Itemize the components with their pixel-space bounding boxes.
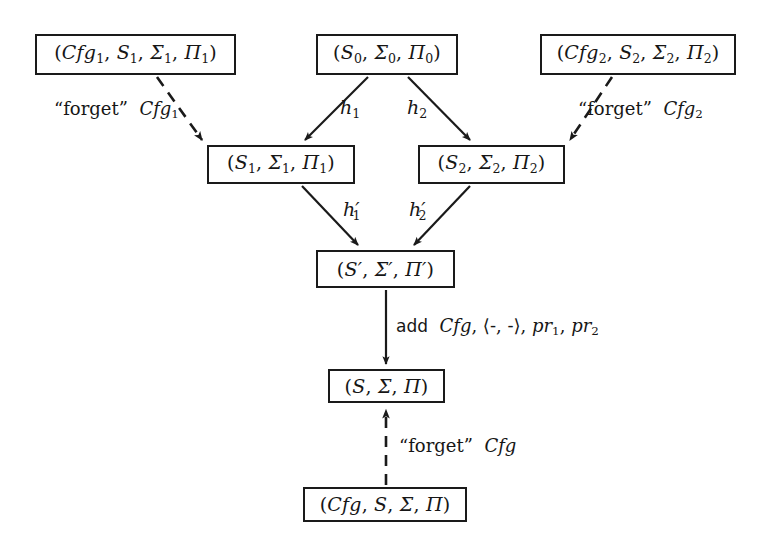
forget-cfg-quote: “forget” [399, 435, 473, 456]
edge-label-h1: h1 [340, 98, 360, 120]
edge-label-h2: h2 [407, 98, 427, 120]
forget-cfg1-sub: 1 [171, 107, 179, 121]
add-cfg-symbol: Cfg [439, 315, 471, 336]
node-s-prime-label: (S′, Σ′, Π′) [337, 260, 434, 279]
add-pair-text: , ⟨-, -⟩, [471, 315, 532, 336]
node-s-label: (S, Σ, Π) [345, 377, 429, 396]
h2-base: h [407, 96, 419, 118]
node-s2-label: (S2, Σ2, Π2) [438, 153, 546, 175]
node-s1-label: (S1, Σ1, Π1) [227, 153, 335, 175]
node-cfg-label: (Cfg, S, Σ, Π) [320, 495, 451, 514]
add-pr2-sub: 2 [591, 324, 599, 338]
edge-label-forget-cfg: “forget” Cfg [399, 437, 516, 456]
h1p-sub: 1 [353, 208, 361, 223]
edge-label-forget-cfg2: “forget” Cfg2 [578, 100, 703, 121]
node-cfg1[interactable]: (Cfg1, S1, Σ1, Π1) [35, 34, 236, 75]
node-s-prime[interactable]: (S′, Σ′, Π′) [316, 250, 455, 288]
h1-base: h [340, 96, 352, 118]
edge-label-h1-prime: h′1 [343, 200, 361, 222]
add-pr2-symbol: pr [571, 315, 591, 336]
h2p-sub: 2 [419, 208, 427, 223]
node-cfg[interactable]: (Cfg, S, Σ, Π) [303, 487, 467, 522]
node-s2[interactable]: (S2, Σ2, Π2) [418, 145, 565, 184]
forget-cfg2-symbol: Cfg [663, 98, 695, 119]
node-cfg1-label: (Cfg1, S1, Σ1, Π1) [54, 43, 217, 65]
h1-sub: 1 [352, 106, 360, 121]
add-word: add [396, 316, 428, 336]
add-pr1-symbol: pr [532, 315, 552, 336]
edge-label-h2-prime: h′2 [409, 200, 427, 222]
forget-cfg1-quote: “forget” [54, 98, 128, 119]
h2-sub: 2 [419, 106, 427, 121]
forget-cfg2-quote: “forget” [578, 98, 652, 119]
node-cfg2[interactable]: (Cfg2, S2, Σ2, Π2) [540, 34, 736, 75]
edge-label-add: add Cfg, ⟨-, -⟩, pr1, pr2 [396, 317, 599, 338]
forget-cfg1-symbol: Cfg [139, 98, 171, 119]
node-cfg2-label: (Cfg2, S2, Σ2, Π2) [557, 43, 720, 65]
edge-label-forget-cfg1: “forget” Cfg1 [54, 100, 179, 121]
diagram-canvas: (Cfg1, S1, Σ1, Π1) (S0, Σ0, Π0) (Cfg2, S… [0, 0, 774, 558]
add-pr1-sub: 1 [552, 324, 560, 338]
forget-cfg-symbol: Cfg [484, 435, 516, 456]
node-s1[interactable]: (S1, Σ1, Π1) [207, 145, 355, 184]
node-s0-label: (S0, Σ0, Π0) [333, 43, 441, 65]
node-s0[interactable]: (S0, Σ0, Π0) [316, 34, 458, 75]
node-s[interactable]: (S, Σ, Π) [328, 369, 445, 403]
forget-cfg2-sub: 2 [695, 107, 703, 121]
